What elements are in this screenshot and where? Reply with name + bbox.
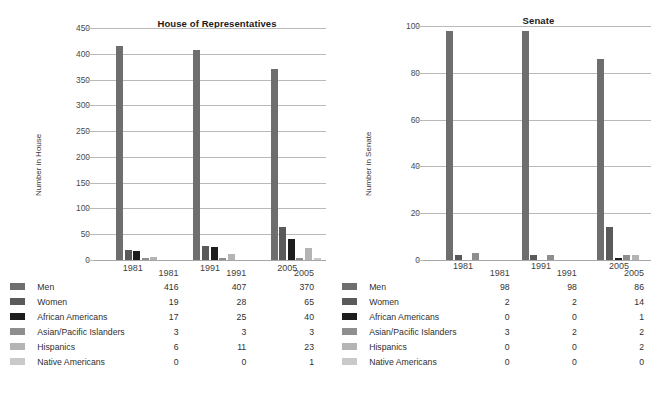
- legend-table-body-house: 198119912005Men416407370Women192865Afric…: [8, 264, 328, 369]
- y-tick-mark: [87, 234, 94, 235]
- legend-swatch-cell: [8, 279, 35, 294]
- y-tick-mark: [417, 26, 424, 27]
- legend-swatch-cell: [8, 339, 35, 354]
- y-tick-mark: [87, 260, 94, 261]
- table-cell-value: 14: [591, 294, 658, 309]
- legend-series-label: Women: [367, 294, 456, 309]
- bar: [193, 50, 200, 260]
- y-axis-title-senate: Number in Senate: [364, 132, 373, 196]
- table-cell-value: 0: [524, 339, 591, 354]
- legend-swatch-cell: [8, 294, 35, 309]
- table-row: Native Americans000: [340, 354, 658, 369]
- table-row: Asian/Pacific Islanders333: [8, 324, 328, 339]
- legend-table-body-senate: 198119912005Men989886Women2214African Am…: [340, 264, 658, 369]
- table-row: Hispanics61123: [8, 339, 328, 354]
- legend-swatch-cell: [340, 294, 367, 309]
- column-header-year: 1981: [125, 264, 193, 279]
- y-tick-mark: [87, 105, 94, 106]
- table-cell-value: 28: [192, 294, 260, 309]
- bar: [305, 248, 312, 260]
- table-header-row: 198119912005: [340, 264, 658, 279]
- table-cell-value: 17: [125, 309, 193, 324]
- table-row: Native Americans001: [8, 354, 328, 369]
- y-tick-mark: [417, 260, 424, 261]
- y-tick-mark: [87, 131, 94, 132]
- table-cell-value: 3: [457, 324, 524, 339]
- legend-data-table-senate: 198119912005Men989886Women2214African Am…: [340, 264, 658, 369]
- table-cell-value: 407: [192, 279, 260, 294]
- bar-group: [575, 26, 651, 260]
- y-axis-ticks-senate: 020406080100: [376, 26, 424, 260]
- table-header-swatch-cell: [340, 264, 367, 279]
- table-cell-value: 65: [260, 294, 328, 309]
- table-cell-value: 370: [260, 279, 328, 294]
- table-header-row: 198119912005: [8, 264, 328, 279]
- y-tick-mark: [87, 28, 94, 29]
- table-row: Men416407370: [8, 279, 328, 294]
- table-header-swatch-cell: [8, 264, 35, 279]
- table-cell-value: 0: [125, 354, 193, 369]
- bar: [446, 31, 453, 260]
- y-tick-mark: [87, 54, 94, 55]
- legend-series-label: Men: [367, 279, 456, 294]
- legend-color-swatch: [342, 298, 357, 305]
- bar: [279, 227, 286, 261]
- y-tick-mark: [87, 157, 94, 158]
- table-cell-value: 2: [524, 294, 591, 309]
- legend-series-label: Asian/Pacific Islanders: [367, 324, 456, 339]
- legend-color-swatch: [342, 343, 357, 350]
- y-axis-title-house: Number in House: [34, 134, 43, 196]
- table-cell-value: 0: [457, 354, 524, 369]
- legend-swatch-cell: [8, 324, 35, 339]
- table-cell-value: 86: [591, 279, 658, 294]
- bar: [133, 251, 140, 260]
- y-tick-mark: [87, 183, 94, 184]
- table-cell-value: 0: [524, 309, 591, 324]
- table-cell-value: 2: [524, 324, 591, 339]
- legend-color-swatch: [10, 343, 25, 350]
- table-cell-value: 3: [125, 324, 193, 339]
- table-header-corner: [367, 264, 456, 279]
- legend-series-label: Native Americans: [35, 354, 124, 369]
- bar-group: [500, 26, 576, 260]
- table-cell-value: 11: [192, 339, 260, 354]
- legend-swatch-cell: [340, 324, 367, 339]
- legend-series-label: Hispanics: [367, 339, 456, 354]
- bar-group: [249, 28, 326, 260]
- column-header-year: 2005: [260, 264, 328, 279]
- table-cell-value: 3: [260, 324, 328, 339]
- plot-area-senate: 020406080100: [376, 26, 651, 260]
- table-header-corner: [35, 264, 124, 279]
- legend-color-swatch: [342, 313, 357, 320]
- table-cell-value: 0: [524, 354, 591, 369]
- table-cell-value: 98: [457, 279, 524, 294]
- table-cell-value: 6: [125, 339, 193, 354]
- chart-panel-house: House of Representatives Number in House…: [0, 0, 336, 393]
- y-tick-mark: [417, 166, 424, 167]
- legend-series-label: Native Americans: [367, 354, 456, 369]
- table-row: Women192865: [8, 294, 328, 309]
- legend-color-swatch: [10, 358, 25, 365]
- table-cell-value: 19: [125, 294, 193, 309]
- legend-swatch-cell: [340, 309, 367, 324]
- bar: [271, 69, 278, 260]
- table-cell-value: 0: [457, 339, 524, 354]
- bar: [116, 46, 123, 260]
- table-cell-value: 3: [192, 324, 260, 339]
- bar-groups-senate: [424, 26, 651, 260]
- legend-swatch-cell: [8, 309, 35, 324]
- legend-color-swatch: [10, 313, 25, 320]
- y-tick-mark: [87, 208, 94, 209]
- y-axis-ticks-house: 050100150200250300350400450: [46, 28, 94, 260]
- table-cell-value: 1: [260, 354, 328, 369]
- table-row: Hispanics002: [340, 339, 658, 354]
- table-row: African Americans172540: [8, 309, 328, 324]
- legend-color-swatch: [10, 283, 25, 290]
- legend-series-label: Asian/Pacific Islanders: [35, 324, 124, 339]
- table-cell-value: 40: [260, 309, 328, 324]
- bar: [522, 31, 529, 260]
- table-row: Men989886: [340, 279, 658, 294]
- table-cell-value: 2: [457, 294, 524, 309]
- table-cell-value: 23: [260, 339, 328, 354]
- column-header-year: 1991: [192, 264, 260, 279]
